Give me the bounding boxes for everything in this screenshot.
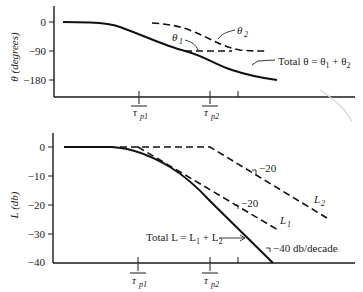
svg-text:θ: θ — [237, 24, 243, 36]
mag-x-tick-label-p1: τ p1 — [130, 264, 147, 289]
mag-y-tick-label: −10 — [28, 170, 46, 182]
mag-x-tick-label-p2: τ p2 — [202, 264, 219, 289]
svg-text:L: L — [313, 193, 320, 205]
magnitude-plot: L (db) 0 −10 −20 −30 −40 τ p1 τ p2 — [8, 133, 355, 289]
l1-asymptote — [138, 147, 278, 230]
slope-marker-total — [266, 248, 270, 252]
phase-plot: θ (degrees) 0 −90 −180 τ p1 τ p2 — [8, 6, 355, 121]
svg-text:2: 2 — [321, 199, 325, 208]
svg-text:Total L = L1 + L2: Total L = L1 + L2 — [146, 231, 222, 246]
svg-text:1: 1 — [179, 37, 183, 46]
phase-y-tick-label: −180 — [23, 74, 46, 86]
mag-y-tick-label: −30 — [28, 228, 46, 240]
svg-text:τ: τ — [133, 106, 138, 118]
phase-y-axis-label: θ (degrees) — [8, 32, 21, 82]
mag-y-tick-label: −40 — [28, 256, 46, 268]
svg-text:Total θ = θ1 + θ2: Total θ = θ1 + θ2 — [278, 55, 350, 70]
svg-text:1: 1 — [287, 220, 291, 229]
svg-text:τ: τ — [132, 274, 137, 286]
svg-text:p2: p2 — [210, 112, 219, 121]
phase-x-tick-label-p1: τ p1 — [131, 98, 148, 121]
l2-label: L 2 — [313, 193, 325, 208]
svg-text:θ: θ — [172, 31, 178, 43]
svg-text:τ: τ — [204, 274, 209, 286]
phase-y-tick-label: −90 — [29, 45, 47, 57]
l1-label: L 1 — [279, 214, 291, 229]
mag-y-tick-label: 0 — [40, 141, 46, 153]
phase-y-tick-label: 0 — [41, 16, 47, 28]
theta2-label: θ 2 — [218, 24, 248, 39]
phase-x-tick-label-p2: τ p2 — [202, 98, 219, 121]
slope-label-total: −40 db/decade — [273, 242, 338, 254]
mag-y-tick-label: −20 — [28, 199, 46, 211]
slope-label-l2: −20 — [259, 162, 277, 174]
svg-text:L: L — [279, 214, 286, 226]
svg-text:2: 2 — [244, 30, 248, 39]
svg-text:p2: p2 — [210, 280, 219, 289]
total-l-label: Total L = L1 + L2 — [146, 231, 245, 246]
svg-text:τ: τ — [204, 106, 209, 118]
theta1-label: θ 1 — [172, 31, 198, 50]
mag-y-axis-label: L (db) — [8, 191, 21, 219]
slope-marker-l2 — [252, 170, 256, 174]
svg-text:p1: p1 — [139, 112, 148, 121]
slope-label-l1: −20 — [241, 197, 259, 209]
scan-artifact — [320, 90, 352, 122]
bode-figure: θ (degrees) 0 −90 −180 τ p1 τ p2 — [0, 0, 363, 292]
svg-text:p1: p1 — [138, 280, 147, 289]
total-theta-label: Total θ = θ Total θ = θ1 + θ2 — [252, 55, 350, 70]
